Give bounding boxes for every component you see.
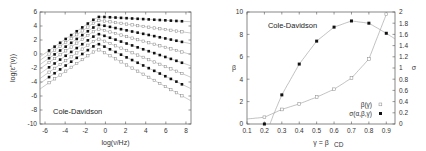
data-point: [175, 49, 177, 51]
x-tick-label: 0.6: [330, 127, 339, 134]
data-point: [114, 32, 116, 34]
data-point: [125, 42, 128, 45]
sigma-data-point: [298, 63, 301, 66]
model-annotation: Cole-Davidson: [53, 107, 102, 116]
y-tick-label: 0: [33, 50, 37, 57]
data-point: [131, 67, 133, 69]
data-point: [64, 50, 66, 52]
sigma-data-point: [385, 32, 388, 35]
data-point: [48, 76, 51, 79]
y-tick-label: -10: [28, 120, 38, 127]
data-point: [164, 19, 167, 22]
data-point: [92, 51, 94, 53]
data-point: [170, 29, 172, 31]
data-point: [48, 82, 50, 84]
data-point: [142, 48, 145, 51]
data-point: [148, 42, 150, 44]
data-point: [70, 56, 72, 58]
x-tick-label: -2: [82, 127, 88, 134]
x-tick-label: 6: [164, 127, 168, 134]
data-point: [148, 58, 150, 60]
data-point: [48, 53, 50, 55]
data-point: [181, 51, 183, 53]
data-point: [136, 54, 138, 56]
data-point: [59, 54, 61, 56]
data-point: [70, 34, 73, 37]
data-point: [170, 19, 173, 22]
data-point: [98, 24, 101, 27]
y-tick-label: -8: [31, 106, 37, 113]
data-point: [81, 30, 83, 32]
data-point: [120, 47, 122, 49]
y-tick-label: -6: [31, 92, 37, 99]
data-point: [64, 59, 66, 61]
data-point: [92, 40, 94, 42]
data-point: [59, 63, 61, 65]
y-tick-label: 0: [239, 120, 243, 127]
data-point: [70, 60, 73, 63]
y2-tick-label: 0.2: [399, 109, 408, 116]
beta-data-point: [350, 77, 353, 80]
data-point: [120, 40, 123, 43]
data-point: [87, 22, 90, 25]
data-point: [136, 24, 138, 26]
data-point: [92, 22, 94, 24]
beta-data-point: [315, 96, 318, 99]
data-point: [170, 88, 172, 90]
data-point: [103, 35, 106, 38]
data-point: [114, 38, 117, 41]
data-point: [181, 72, 183, 74]
y-tick-label: 8: [239, 31, 243, 38]
y2-tick-label: 1.6: [399, 31, 408, 38]
data-point: [64, 64, 67, 67]
x-axis-label-subscript: CD: [334, 141, 344, 148]
data-point: [53, 72, 56, 75]
data-point: [103, 40, 105, 42]
x-tick-label: 2: [124, 127, 128, 134]
data-point: [48, 61, 50, 63]
data-point: [120, 17, 123, 20]
legend-label-sigma: σ(α,β,γ): [349, 110, 372, 118]
data-point: [64, 45, 67, 48]
data-point: [98, 38, 100, 40]
data-point: [164, 37, 167, 40]
data-point: [153, 35, 156, 38]
data-point: [131, 24, 133, 26]
beta-data-point: [385, 13, 388, 16]
x-tick-label: 4: [144, 127, 148, 134]
data-point: [98, 49, 100, 51]
x-tick-label: -4: [62, 127, 68, 134]
data-point: [75, 57, 78, 60]
data-point: [87, 44, 89, 46]
data-point: [81, 43, 84, 46]
data-point: [103, 51, 105, 53]
data-point: [92, 35, 95, 38]
data-point: [125, 17, 128, 20]
data-point: [92, 45, 95, 48]
data-point: [59, 45, 61, 47]
data-point: [164, 65, 166, 67]
x-tick-label: 8: [184, 127, 188, 134]
data-point: [153, 27, 155, 29]
data-point: [87, 39, 90, 42]
data-point: [59, 68, 62, 71]
data-point: [98, 33, 101, 36]
data-point: [98, 28, 100, 30]
data-point: [109, 16, 112, 19]
y-tick-label: 6: [239, 53, 243, 60]
data-point: [131, 44, 134, 47]
data-point: [175, 20, 178, 23]
data-point: [136, 61, 139, 64]
data-point: [98, 16, 101, 19]
sigma-data-point: [315, 40, 318, 43]
data-point: [175, 60, 178, 63]
data-point: [164, 75, 167, 78]
data-point: [136, 38, 138, 40]
y-tick-label: 4: [239, 76, 243, 83]
x-axis-label: γ = β: [313, 139, 329, 147]
y2-tick-label: 1.8: [399, 20, 408, 27]
data-point: [153, 43, 155, 45]
data-point: [142, 25, 144, 27]
data-point: [142, 18, 145, 21]
data-point: [103, 24, 106, 27]
